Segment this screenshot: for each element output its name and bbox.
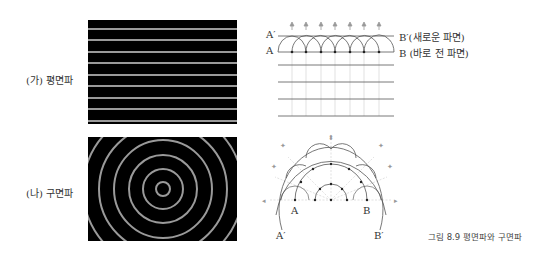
svg-text:✦: ✦ xyxy=(280,142,286,150)
svg-text:▸: ▸ xyxy=(394,197,398,205)
plane-wave-image xyxy=(88,20,237,124)
spherical-wave-label: (나) 구면파 xyxy=(26,185,73,200)
spherical-label-b-prime: B′ xyxy=(374,230,384,241)
svg-text:✦: ✦ xyxy=(271,163,277,171)
spherical-label-b: B xyxy=(363,205,370,216)
plane-label-a-prime: A′ xyxy=(266,29,276,40)
svg-text:⬍: ⬍ xyxy=(328,134,334,142)
plane-wave-label: (가) 평면파 xyxy=(26,72,73,87)
svg-text:✦: ✦ xyxy=(378,142,384,150)
spherical-wave-image xyxy=(88,137,237,241)
plane-label-b-prime: B′(새로운 파면) xyxy=(399,29,465,44)
svg-text:◂: ◂ xyxy=(262,197,266,205)
plane-label-b: B (바로 전 파면) xyxy=(399,45,469,60)
spherical-label-a-prime: A′ xyxy=(276,230,286,241)
plane-label-a: A xyxy=(266,45,273,56)
figure-caption: 그림 8.9 평면파와 구면파 xyxy=(428,230,522,242)
spherical-label-a: A xyxy=(291,205,298,216)
svg-text:✦: ✦ xyxy=(387,163,393,171)
